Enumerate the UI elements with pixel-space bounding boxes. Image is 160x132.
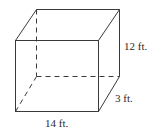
height-label: 12 ft. <box>124 40 147 52</box>
top-right-depth-edge <box>99 10 120 41</box>
width-label: 14 ft. <box>45 117 68 129</box>
top-left-depth-edge <box>16 10 37 41</box>
hidden-bottom-left-depth-edge <box>16 77 37 112</box>
depth-label: 3 ft. <box>115 92 133 104</box>
rectangular-prism-diagram: 12 ft. 3 ft. 14 ft. <box>0 0 160 132</box>
